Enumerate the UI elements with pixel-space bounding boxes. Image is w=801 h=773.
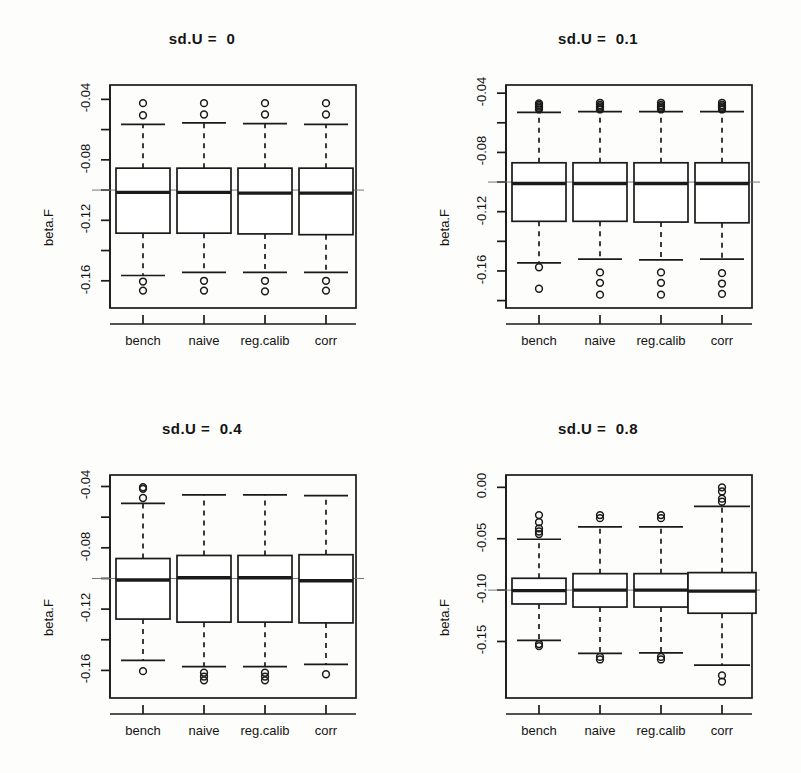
y-tick-label: -0.16 xyxy=(78,648,93,690)
box-naive xyxy=(177,495,231,684)
figure-canvas: sd.U = 0 beta.F -0.04-0.08-0.12-0.16benc… xyxy=(0,0,801,773)
plot-area xyxy=(418,30,778,360)
panel-sd-u-0: sd.U = 0 beta.F -0.04-0.08-0.12-0.16benc… xyxy=(22,30,382,360)
box-naive xyxy=(177,100,231,294)
plot-area xyxy=(418,420,778,750)
y-tick-label: -0.08 xyxy=(78,525,93,567)
x-tick-label-corr: corr xyxy=(672,723,772,738)
plot-area xyxy=(22,420,382,750)
box-corr xyxy=(299,496,353,678)
box-corr xyxy=(695,99,749,297)
box-corr xyxy=(688,484,756,685)
y-tick-label: -0.12 xyxy=(78,198,93,240)
y-tick-label: 0.00 xyxy=(474,465,489,507)
box-reg.calib xyxy=(238,495,292,684)
panel-sd-u-0-4: sd.U = 0.4 beta.F -0.04-0.08-0.12-0.16be… xyxy=(22,420,382,750)
y-tick-label: -0.12 xyxy=(474,189,489,231)
box-bench xyxy=(116,100,170,294)
box-bench xyxy=(512,100,566,292)
x-tick-label-corr: corr xyxy=(672,333,772,348)
box-bench xyxy=(116,484,170,675)
box-corr xyxy=(299,100,353,294)
y-tick-label: -0.04 xyxy=(78,77,93,119)
y-tick-label: -0.04 xyxy=(474,71,489,113)
y-tick-label: -0.16 xyxy=(474,248,489,290)
box-reg.calib xyxy=(238,100,292,295)
y-tick-label: -0.05 xyxy=(474,516,489,558)
box-naive xyxy=(573,512,627,663)
box-naive xyxy=(573,99,627,298)
y-tick-label: -0.10 xyxy=(474,568,489,610)
panel-sd-u-0-8: sd.U = 0.8 beta.F 0.00-0.05-0.10-0.15ben… xyxy=(418,420,778,750)
x-tick-label-corr: corr xyxy=(276,333,376,348)
y-tick-label: -0.08 xyxy=(78,137,93,179)
box-reg.calib xyxy=(634,512,688,663)
y-tick-label: -0.16 xyxy=(78,258,93,300)
y-tick-label: -0.08 xyxy=(474,130,489,172)
y-tick-label: -0.04 xyxy=(78,464,93,506)
box-bench xyxy=(512,512,566,650)
y-tick-label: -0.12 xyxy=(78,587,93,629)
y-tick-label: -0.15 xyxy=(474,619,489,661)
plot-area xyxy=(22,30,382,360)
x-tick-label-corr: corr xyxy=(276,723,376,738)
box-reg.calib xyxy=(634,99,688,298)
panel-sd-u-0-1: sd.U = 0.1 beta.F -0.04-0.08-0.12-0.16be… xyxy=(418,30,778,360)
